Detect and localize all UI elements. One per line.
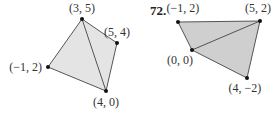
vertex-point <box>176 20 180 24</box>
vertex-point <box>245 76 249 80</box>
vertex-label: (0, 0) <box>167 53 193 67</box>
vertex-label: (−1, 2) <box>9 60 42 74</box>
vertex-point <box>46 65 50 69</box>
vertex-label: (4, −2) <box>229 81 262 95</box>
quadrilateral-figure-2: 72. (−1, 2)(5, 2)(0, 0)(4, −2) <box>150 1 271 95</box>
exercise-number: 72. <box>150 3 166 18</box>
vertex-label: (−1, 2) <box>167 1 200 15</box>
vertex-point <box>80 17 84 21</box>
quadrilateral-figure-1: (3, 5)(5, 4)(−1, 2)(4, 0) <box>9 1 130 109</box>
vertex-label: (3, 5) <box>69 1 95 15</box>
vertex-point <box>190 48 194 52</box>
diagram-canvas: (3, 5)(5, 4)(−1, 2)(4, 0) 72. (−1, 2)(5,… <box>0 0 278 113</box>
vertex-label: (5, 2) <box>245 1 271 15</box>
vertex-point <box>258 19 262 23</box>
vertex-point <box>115 41 119 45</box>
vertex-label: (4, 0) <box>93 95 119 109</box>
vertex-point <box>104 89 108 93</box>
vertex-label: (5, 4) <box>104 25 130 39</box>
